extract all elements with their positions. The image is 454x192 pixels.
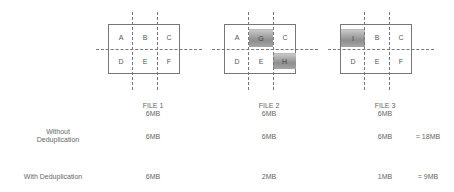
- file-name: FILE 3: [360, 102, 410, 110]
- block-divider-vertical: [364, 12, 365, 90]
- block-divider-vertical: [132, 12, 133, 90]
- changed-block-cell: I: [341, 29, 365, 47]
- file-2-header: FILE 2 6MB: [244, 102, 294, 118]
- with-dedup-file-3: 1MB: [360, 173, 410, 181]
- block-divider-vertical: [157, 12, 158, 90]
- label-line: Without: [18, 128, 98, 136]
- with-dedup-file-2: 2MB: [244, 173, 294, 181]
- block-cell: E: [365, 49, 389, 74]
- changed-block-cell: H: [273, 53, 296, 69]
- block-cell: D: [341, 49, 365, 74]
- file-2-diagram: A G C D E H: [212, 12, 332, 90]
- block-cell: B: [365, 25, 389, 50]
- block-divider-vertical: [273, 12, 274, 90]
- block-cell: F: [157, 49, 181, 74]
- file-name: FILE 2: [244, 102, 294, 110]
- without-dedup-total: = 18MB: [408, 133, 448, 141]
- file-1-header: FILE 1 6MB: [128, 102, 178, 118]
- label-line: Deduplication: [18, 136, 98, 144]
- file-3-diagram: I B C D E F: [328, 12, 448, 90]
- block-cell: C: [273, 25, 297, 50]
- with-dedup-file-1: 6MB: [128, 173, 178, 181]
- block-cell: E: [249, 49, 273, 74]
- block-divider-vertical: [248, 12, 249, 90]
- changed-block-cell: G: [249, 29, 273, 47]
- without-dedup-file-1: 6MB: [128, 133, 178, 141]
- file-1-diagram: A B C D E F: [96, 12, 216, 90]
- file-size: 6MB: [244, 110, 294, 118]
- without-dedup-label: Without Deduplication: [18, 128, 98, 144]
- file-3-header: FILE 3 6MB: [360, 102, 410, 118]
- block-divider-horizontal: [328, 49, 434, 50]
- block-cell: D: [225, 49, 249, 74]
- block-cell: A: [225, 25, 249, 50]
- block-divider-horizontal: [212, 49, 318, 50]
- block-cell: C: [157, 25, 181, 50]
- file-name: FILE 1: [128, 102, 178, 110]
- block-cell: E: [133, 49, 157, 74]
- block-cell: B: [133, 25, 157, 50]
- block-divider-horizontal: [96, 49, 202, 50]
- block-cell: F: [389, 49, 413, 74]
- without-dedup-file-3: 6MB: [360, 133, 410, 141]
- block-divider-vertical: [389, 12, 390, 90]
- block-cell: D: [109, 49, 133, 74]
- block-cell: C: [389, 25, 413, 50]
- with-dedup-label: With Deduplication: [8, 173, 98, 181]
- file-size: 6MB: [128, 110, 178, 118]
- file-size: 6MB: [360, 110, 410, 118]
- with-dedup-total: = 9MB: [408, 173, 448, 181]
- block-cell: A: [109, 25, 133, 50]
- without-dedup-file-2: 6MB: [244, 133, 294, 141]
